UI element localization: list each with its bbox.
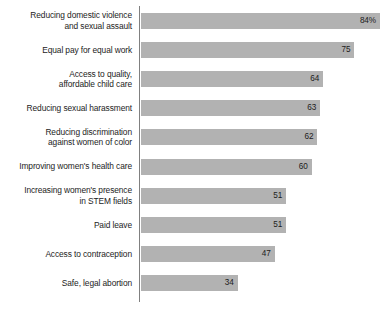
bar-track: 34 [141, 269, 238, 298]
bar-row: Access to quality, affordable child care… [0, 64, 387, 93]
category-label: Paid leave [0, 210, 132, 239]
bar-row: Reducing domestic violence and sexual as… [0, 6, 387, 35]
bar-value-label: 84% [360, 13, 376, 29]
bar [141, 159, 312, 175]
bar-row: Safe, legal abortion34 [0, 269, 387, 298]
category-label: Equal pay for equal work [0, 35, 132, 64]
bar-track: 75 [141, 35, 354, 64]
plot-area: Reducing domestic violence and sexual as… [0, 0, 387, 316]
category-label: Reducing domestic violence and sexual as… [0, 6, 132, 35]
bar [141, 42, 354, 58]
category-label: Reducing sexual harassment [0, 94, 132, 123]
bar [141, 217, 286, 233]
bar [141, 71, 323, 87]
category-label: Increasing women's presence in STEM fiel… [0, 181, 132, 210]
bar-row: Improving women's health care60 [0, 152, 387, 181]
bar-value-label: 75 [341, 42, 350, 58]
bar-value-label: 63 [307, 100, 316, 116]
bar [141, 246, 275, 262]
bar [141, 275, 238, 291]
bar-row: Access to contraception47 [0, 240, 387, 269]
bar-row: Reducing discrimination against women of… [0, 123, 387, 152]
bar [141, 13, 380, 29]
bar-track: 63 [141, 94, 320, 123]
bar-track: 64 [141, 64, 323, 93]
bar-value-label: 47 [262, 246, 271, 262]
category-label: Improving women's health care [0, 152, 132, 181]
category-label: Reducing discrimination against women of… [0, 123, 132, 152]
bar-track: 51 [141, 181, 286, 210]
bar [141, 129, 317, 145]
category-label: Safe, legal abortion [0, 269, 132, 298]
bar-track: 60 [141, 152, 312, 181]
bar-value-label: 62 [304, 129, 313, 145]
bar-row: Equal pay for equal work75 [0, 35, 387, 64]
bar-value-label: 34 [225, 275, 234, 291]
bar-track: 47 [141, 240, 275, 269]
bar-value-label: 64 [310, 71, 319, 87]
category-label: Access to contraception [0, 240, 132, 269]
bar [141, 100, 320, 116]
bar-value-label: 60 [299, 159, 308, 175]
bar-row: Paid leave51 [0, 210, 387, 239]
category-label: Access to quality, affordable child care [0, 64, 132, 93]
bar-track: 62 [141, 123, 317, 152]
bar-track: 84% [141, 6, 380, 35]
bar-value-label: 51 [273, 188, 282, 204]
bar-value-label: 51 [273, 217, 282, 233]
bar-row: Increasing women's presence in STEM fiel… [0, 181, 387, 210]
bar [141, 188, 286, 204]
bar-track: 51 [141, 210, 286, 239]
horizontal-bar-chart: Reducing domestic violence and sexual as… [0, 0, 387, 316]
bar-row: Reducing sexual harassment63 [0, 94, 387, 123]
